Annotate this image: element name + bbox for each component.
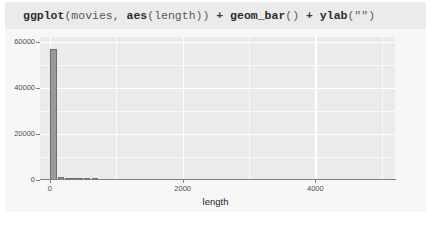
y-axis-tick — [36, 134, 40, 135]
x-axis-tick — [50, 180, 51, 183]
y-axis-tick-label: 40000 — [5, 84, 35, 92]
y-axis-tick-label: 20000 — [5, 130, 35, 138]
code-header: ggplot(movies, aes(length)) + geom_bar()… — [5, 2, 426, 29]
plot-output: 020004000 0200004000060000 length — [5, 29, 426, 212]
x-axis-title: length — [5, 196, 426, 207]
gridline-major-vertical — [315, 37, 316, 180]
y-axis-tick — [36, 88, 40, 89]
code-token: + — [209, 9, 230, 22]
gridline-minor-horizontal — [40, 157, 395, 158]
gridline-minor-vertical — [116, 37, 117, 180]
code-token: ylab — [320, 9, 348, 22]
x-axis-tick — [183, 180, 184, 183]
x-axis-tick-label: 0 — [30, 185, 70, 193]
code-token: + — [299, 9, 320, 22]
ggplot-example-card: ggplot(movies, aes(length)) + geom_bar()… — [5, 2, 426, 212]
gridline-major-vertical — [183, 37, 184, 180]
code-token: () — [285, 9, 299, 22]
gridline-major-horizontal — [40, 134, 395, 135]
gridline-minor-vertical — [382, 37, 383, 180]
gridline-major-horizontal — [40, 42, 395, 43]
code-token: (length)) — [147, 9, 209, 22]
x-axis-tick-label: 4000 — [295, 185, 335, 193]
x-axis-tick-label: 2000 — [163, 185, 203, 193]
code-token: ggplot — [23, 9, 64, 22]
code-token: geom_bar — [230, 9, 285, 22]
code-token: movies, — [71, 9, 126, 22]
code-token: aes — [127, 9, 148, 22]
code-token: ("") — [347, 9, 375, 22]
bar — [50, 49, 57, 180]
x-axis-tick — [315, 180, 316, 183]
y-axis-tick-label: 60000 — [5, 38, 35, 46]
x-axis-line — [40, 179, 396, 180]
y-axis-tick — [36, 42, 40, 43]
ggplot-code-line: ggplot(movies, aes(length)) + geom_bar()… — [23, 9, 375, 22]
y-axis-tick — [36, 180, 40, 181]
screenshot-root: ggplot(movies, aes(length)) + geom_bar()… — [0, 0, 432, 227]
gridline-major-horizontal — [40, 88, 395, 89]
gridline-minor-vertical — [249, 37, 250, 180]
plot-panel — [40, 37, 395, 180]
y-axis-tick-label: 0 — [5, 176, 35, 184]
gridline-minor-horizontal — [40, 111, 395, 112]
gridline-minor-horizontal — [40, 65, 395, 66]
